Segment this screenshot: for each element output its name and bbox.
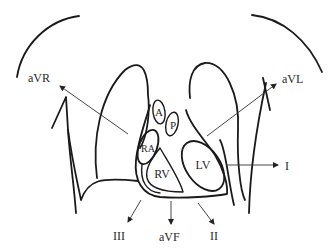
label-lv: LV [196,158,211,172]
label-rv: RV [154,167,170,181]
label-a: A [155,106,163,118]
label-ra: RA [141,143,156,154]
label-ii: II [210,229,218,243]
label-iii: III [113,229,125,243]
label-i: I [285,159,289,173]
chamber-aorta: A [151,99,166,124]
chamber-right-atrium: RA [133,127,162,167]
lead-avl-axis: aVL [207,72,303,136]
lead-avr-axis: aVR [28,71,128,134]
right-shoulder-arc [252,15,322,72]
lead-ii-axis: II [198,203,218,243]
chamber-pulmonary: P [164,111,181,137]
chamber-right-ventricle: RV [147,148,183,192]
left-shoulder-arc [17,16,79,77]
lead-i-axis: I [226,159,289,173]
right-lung [96,65,149,178]
lead-avf-axis: aVF [159,201,180,244]
label-p: P [170,119,176,131]
heart-lead-diagram: A P RA RV LV aVR aVL I [0,0,330,251]
lead-iii-axis: III [113,200,141,243]
label-avf: aVF [159,230,180,244]
label-avl: aVL [282,72,303,86]
label-avr: aVR [28,71,50,85]
